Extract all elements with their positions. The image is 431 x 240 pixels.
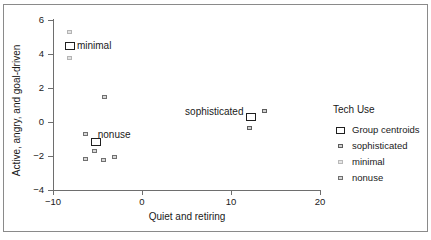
- cluster-label-sophisticated: sophisticated: [185, 107, 243, 117]
- y-tick-label: 4: [0, 49, 44, 59]
- x-tick-label: 0: [122, 197, 162, 207]
- sophisticated-swatch-icon: [338, 144, 343, 148]
- legend-item-nonuse[interactable]: nonuse: [333, 170, 428, 186]
- data-point-sophisticated: [247, 126, 252, 130]
- data-point-nonuse: [102, 95, 107, 99]
- centroid-swatch-icon: [336, 127, 345, 134]
- scatter-plot-figure: Quiet and retiring Active, angry, and go…: [0, 0, 431, 240]
- y-tick-label: −2: [0, 151, 44, 161]
- nonuse-swatch-icon: [338, 176, 343, 180]
- legend-label: minimal: [352, 157, 385, 167]
- y-tick-label: 2: [0, 83, 44, 93]
- y-tick-label: −4: [0, 185, 44, 195]
- cluster-label-nonuse: nonuse: [98, 130, 131, 140]
- x-tick-mark: [142, 190, 143, 195]
- data-point-nonuse: [83, 132, 88, 136]
- data-point-nonuse: [112, 155, 117, 159]
- plot-area: minimalnonusesophisticated: [53, 20, 320, 190]
- legend-key: [333, 160, 347, 164]
- x-axis-title: Quiet and retiring: [53, 211, 321, 222]
- legend-item-minimal[interactable]: minimal: [333, 154, 428, 170]
- legend-label: sophisticated: [352, 141, 407, 151]
- y-tick-label: 6: [0, 15, 44, 25]
- x-tick-mark: [231, 190, 232, 195]
- data-point-minimal: [67, 30, 72, 34]
- legend-label: Group centroids: [352, 125, 420, 135]
- legend-key: [333, 144, 347, 148]
- x-tick-label: −10: [33, 197, 73, 207]
- x-axis-line: [53, 190, 321, 191]
- legend: Tech Use Group centroidssophisticatedmin…: [333, 104, 428, 186]
- legend-title: Tech Use: [333, 104, 428, 116]
- data-point-sophisticated: [262, 109, 267, 113]
- x-tick-mark: [320, 190, 321, 195]
- cluster-label-minimal: minimal: [77, 41, 111, 51]
- y-tick-label: 0: [0, 117, 44, 127]
- x-tick-label: 20: [300, 197, 340, 207]
- legend-items: Group centroidssophisticatedminimalnonus…: [333, 122, 428, 186]
- x-tick-label: 10: [211, 197, 251, 207]
- legend-item-group-centroids[interactable]: Group centroids: [333, 122, 428, 138]
- legend-item-sophisticated[interactable]: sophisticated: [333, 138, 428, 154]
- legend-key: [333, 176, 347, 180]
- group-centroid-sophisticated: [246, 113, 256, 121]
- legend-key: [333, 127, 347, 134]
- data-point-nonuse: [92, 149, 97, 153]
- legend-label: nonuse: [352, 173, 383, 183]
- data-point-nonuse: [101, 158, 106, 162]
- data-point-nonuse: [83, 157, 88, 161]
- x-tick-mark: [53, 190, 54, 195]
- data-point-minimal: [67, 56, 72, 60]
- minimal-swatch-icon: [338, 160, 343, 164]
- group-centroid-minimal: [65, 42, 75, 50]
